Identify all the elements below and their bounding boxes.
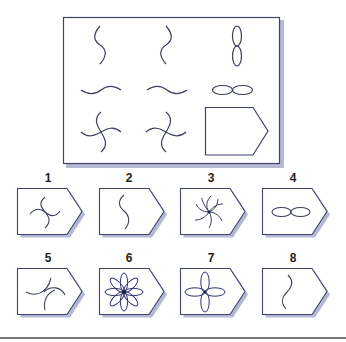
option-2-label: 2 — [119, 171, 139, 185]
matrix-cell-2-3-figure-eight-horizontal — [211, 82, 255, 98]
option-2-s-curve-vertical[interactable] — [99, 188, 169, 240]
matrix-cell-2-2-s-curve-horizontal-mirrored — [146, 82, 188, 98]
option-5-three-arc-swirl[interactable] — [17, 268, 87, 320]
matrix-cell-1-1-s-curve-vertical — [90, 25, 110, 65]
option-3-label: 3 — [201, 171, 221, 185]
option-5-label: 5 — [38, 251, 58, 265]
option-4-label: 4 — [283, 171, 303, 185]
option-3-eight-arm-spiral[interactable] — [180, 188, 250, 240]
matrix-cell-3-1-pinwheel-cross — [80, 110, 122, 154]
option-7-label: 7 — [201, 251, 221, 265]
matrix-cell-1-2-s-curve-vertical-mirrored — [156, 25, 176, 65]
matrix-cell-2-1-s-curve-horizontal — [80, 82, 122, 98]
matrix-cell-3-3-missing-pentagon — [205, 107, 269, 157]
bottom-divider — [0, 337, 346, 339]
option-1-pinwheel-cross[interactable] — [17, 188, 87, 240]
option-7-four-petal-flower[interactable] — [180, 268, 250, 320]
option-8-label: 8 — [283, 251, 303, 265]
option-4-figure-eight-horizontal[interactable] — [262, 188, 332, 240]
option-8-s-curve-vertical-mirrored[interactable] — [262, 268, 332, 320]
matrix-cell-3-2-pinwheel-cross-mirrored — [145, 110, 187, 154]
option-1-label: 1 — [38, 171, 58, 185]
option-6-label: 6 — [119, 251, 139, 265]
option-6-eight-petal-flower[interactable] — [99, 268, 169, 320]
matrix-cell-1-3-figure-eight-vertical — [229, 25, 245, 67]
